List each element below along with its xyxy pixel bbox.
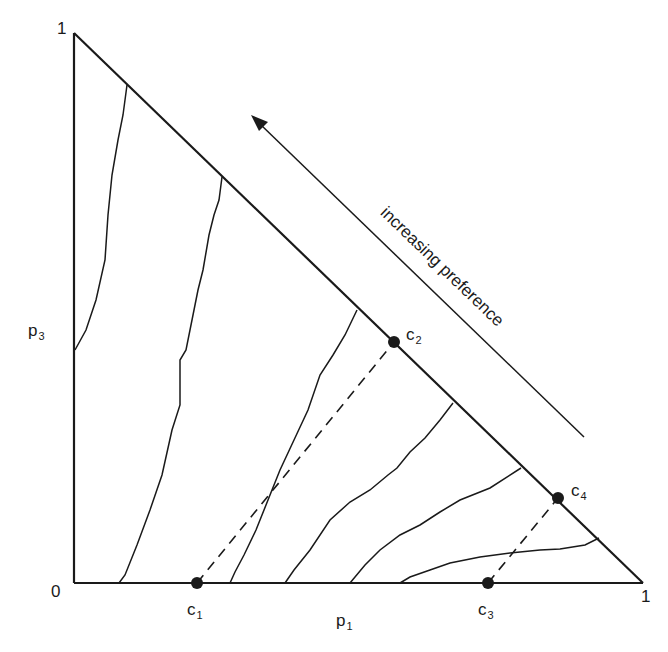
dashed-lines (197, 342, 558, 583)
point-label-c2-var: c (406, 325, 415, 344)
x-max-label: 1 (641, 588, 650, 605)
probability-triangle-diagram (0, 0, 668, 652)
arrow-shaft (260, 124, 584, 437)
x-axis-label-var: p (336, 611, 345, 630)
y-max-label: 1 (57, 20, 66, 37)
origin-label: 0 (51, 583, 60, 600)
point-label-c3-sub: 3 (488, 609, 494, 621)
point-label-c1-var: c (187, 600, 196, 619)
y-axis-label: p3 (28, 322, 45, 339)
indifference-curve-3 (230, 310, 357, 583)
point-label-c4-sub: 4 (581, 490, 587, 502)
dashed-line-c3-c4 (488, 498, 558, 583)
point-c2 (388, 336, 400, 348)
point-label-c2: c2 (406, 326, 422, 343)
lottery-points (191, 336, 564, 589)
y-axis-label-var: p (28, 321, 37, 340)
point-label-c1-sub: 1 (197, 609, 203, 621)
indifference-curve-1 (75, 85, 127, 350)
indifference-curves (75, 85, 599, 583)
preference-arrow (251, 115, 584, 437)
point-label-c4-var: c (571, 481, 580, 500)
point-label-c2-sub: 2 (416, 334, 422, 346)
x-axis-label-sub: 1 (346, 620, 352, 632)
indifference-curve-2 (119, 177, 222, 583)
dashed-line-c1-c2 (197, 342, 394, 583)
indifference-curve-6 (400, 538, 599, 583)
indifference-curve-4 (285, 403, 453, 583)
point-label-c1: c1 (187, 601, 203, 618)
point-label-c3-var: c (478, 600, 487, 619)
point-label-c3: c3 (478, 601, 494, 618)
x-axis-label: p1 (336, 612, 353, 629)
point-c4 (552, 492, 564, 504)
y-axis-label-sub: 3 (38, 330, 44, 342)
point-label-c4: c4 (571, 482, 587, 499)
point-c3 (482, 577, 494, 589)
point-c1 (191, 577, 203, 589)
